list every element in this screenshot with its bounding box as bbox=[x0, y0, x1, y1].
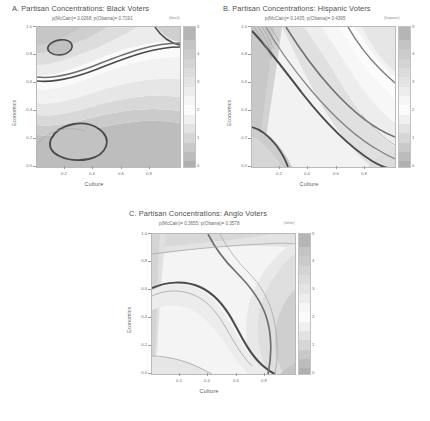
y-tickmark bbox=[148, 345, 151, 346]
x-tickmark bbox=[179, 373, 180, 376]
colorbar-tick: 4 bbox=[197, 51, 199, 56]
y-tick: 0.4 bbox=[10, 107, 32, 112]
x-tickmark bbox=[149, 166, 150, 169]
contour-plot-hispanic[interactable] bbox=[251, 26, 396, 168]
y-tick: 0.2 bbox=[225, 135, 247, 140]
y-axis-label: Economics bbox=[126, 307, 132, 333]
x-tickmark bbox=[279, 166, 280, 169]
y-tickmark bbox=[33, 166, 36, 167]
y-tick: 0.4 bbox=[125, 314, 147, 319]
x-tick: 0.2 bbox=[172, 378, 186, 383]
y-tick: 0.4 bbox=[225, 107, 247, 112]
panel-hispanic-voters: B. Partisan Concentrations: Hispanic Vot… bbox=[215, 4, 430, 209]
colorbar-tick: 2 bbox=[412, 107, 414, 112]
y-tick: 0.8 bbox=[225, 51, 247, 56]
x-tick: 0.6 bbox=[329, 171, 343, 176]
y-tickmark bbox=[33, 82, 36, 83]
y-tick: 1.0 bbox=[125, 231, 147, 236]
x-tickmark bbox=[207, 373, 208, 376]
y-tickmark bbox=[248, 26, 251, 27]
y-tickmark bbox=[248, 110, 251, 111]
x-tick: 0.4 bbox=[300, 171, 314, 176]
x-axis-label: Culture bbox=[85, 181, 104, 187]
colorbar-tick: 3 bbox=[197, 79, 199, 84]
colorbar[interactable] bbox=[398, 26, 411, 168]
y-tickmark bbox=[148, 289, 151, 290]
colorbar[interactable] bbox=[298, 233, 311, 375]
y-tickmark bbox=[33, 26, 36, 27]
panel-title: A. Partisan Concentrations: Black Voters bbox=[0, 4, 149, 13]
y-tickmark bbox=[248, 138, 251, 139]
y-tick: 0.0 bbox=[125, 370, 147, 375]
x-tick: 0.2 bbox=[272, 171, 286, 176]
colorbar-tick: 0 bbox=[312, 370, 314, 375]
y-tick: 0.6 bbox=[125, 286, 147, 291]
colorbar-tick: 4 bbox=[412, 51, 414, 56]
x-tick: 0.4 bbox=[85, 171, 99, 176]
x-tick: 0.8 bbox=[357, 171, 371, 176]
colorbar-group-label: (black) bbox=[169, 16, 180, 20]
x-tick: 0.6 bbox=[229, 378, 243, 383]
colorbar-tick: 3 bbox=[312, 286, 314, 291]
y-tick: 0.2 bbox=[125, 342, 147, 347]
colorbar-tick: 1 bbox=[412, 135, 414, 140]
x-tickmark bbox=[92, 166, 93, 169]
y-tick: 0.0 bbox=[225, 163, 247, 168]
x-tick: 0.8 bbox=[142, 171, 156, 176]
panel-subtitle: p(McCain)= 0.0268; p(Obama)= 0.7191 bbox=[52, 16, 132, 21]
y-tick: 1.0 bbox=[10, 24, 32, 29]
panel-title: C. Partisan Concentrations: Anglo Voters bbox=[107, 209, 267, 218]
y-tickmark bbox=[248, 166, 251, 167]
x-tickmark bbox=[264, 373, 265, 376]
y-tick: 0.8 bbox=[10, 51, 32, 56]
panel-subtitle: p(McCain)= 0.1435; p(Obama)= 0.4395 bbox=[265, 16, 345, 21]
panel-subtitle: p(McCain)= 0.3655; p(Obama)= 0.3578 bbox=[159, 221, 239, 226]
y-axis-label: Economics bbox=[11, 100, 17, 126]
y-tick: 0.2 bbox=[10, 135, 32, 140]
x-tick: 0.6 bbox=[114, 171, 128, 176]
x-tickmark bbox=[307, 166, 308, 169]
y-tick: 0.8 bbox=[125, 258, 147, 263]
y-tick: 0.6 bbox=[225, 79, 247, 84]
panel-black-voters: A. Partisan Concentrations: Black Voters… bbox=[0, 4, 215, 209]
y-tickmark bbox=[248, 82, 251, 83]
contour-plot-black[interactable] bbox=[36, 26, 181, 168]
y-tickmark bbox=[148, 261, 151, 262]
x-tick: 0.4 bbox=[200, 378, 214, 383]
colorbar-tick: 5 bbox=[312, 231, 314, 236]
y-tickmark bbox=[148, 373, 151, 374]
colorbar-tick: 1 bbox=[197, 135, 199, 140]
x-tickmark bbox=[64, 166, 65, 169]
x-tickmark bbox=[236, 373, 237, 376]
colorbar-tick: 3 bbox=[412, 79, 414, 84]
x-tick: 0.2 bbox=[57, 171, 71, 176]
x-tickmark bbox=[121, 166, 122, 169]
y-tickmark bbox=[248, 54, 251, 55]
x-axis-label: Culture bbox=[200, 388, 219, 394]
colorbar-tick: 5 bbox=[412, 24, 414, 29]
colorbar-tick: 0 bbox=[197, 163, 199, 168]
colorbar-tick: 0 bbox=[412, 163, 414, 168]
colorbar-tick: 2 bbox=[312, 314, 314, 319]
y-tickmark bbox=[33, 54, 36, 55]
y-tickmark bbox=[33, 110, 36, 111]
y-axis-label: Economics bbox=[226, 100, 232, 126]
colorbar[interactable] bbox=[183, 26, 196, 168]
contour-plot-anglo[interactable] bbox=[151, 233, 296, 375]
colorbar-tick: 4 bbox=[312, 258, 314, 263]
x-tickmark bbox=[336, 166, 337, 169]
colorbar-group-label: (white) bbox=[284, 221, 295, 225]
colorbar-tick: 1 bbox=[312, 342, 314, 347]
y-tickmark bbox=[33, 138, 36, 139]
colorbar-group-label: (hispanic) bbox=[384, 16, 400, 20]
y-tick: 0.6 bbox=[10, 79, 32, 84]
colorbar-tick: 2 bbox=[197, 107, 199, 112]
panel-anglo-voters: C. Partisan Concentrations: Anglo Voters… bbox=[107, 209, 323, 419]
colorbar-tick: 5 bbox=[197, 24, 199, 29]
x-tick: 0.8 bbox=[257, 378, 271, 383]
x-axis-label: Culture bbox=[300, 181, 319, 187]
y-tickmark bbox=[148, 233, 151, 234]
y-tickmark bbox=[148, 317, 151, 318]
x-tickmark bbox=[364, 166, 365, 169]
y-tick: 1.0 bbox=[225, 24, 247, 29]
